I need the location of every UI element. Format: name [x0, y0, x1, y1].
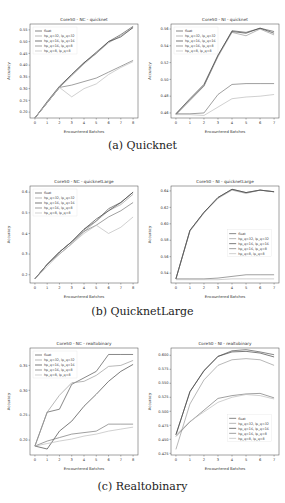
y-axis-label: Accuracy — [6, 392, 11, 410]
y-tick-label: 0.425 — [158, 452, 168, 456]
y-tick-label: 0.30 — [19, 87, 28, 91]
x-tick-label: 6 — [259, 286, 262, 290]
y-tick-label: 0.30 — [19, 389, 28, 393]
y-tick-label: 0.40 — [19, 63, 28, 67]
x-tick-label: 1 — [46, 121, 48, 125]
y-axis-label: Accuracy — [6, 225, 11, 243]
caption-quicknetlarge: (b) QuicknetLarge — [0, 305, 285, 318]
chart-legend: floathp_q=32, lp_q=32hp_q=16, lp_q=16hp_… — [33, 351, 77, 378]
x-axis-label: Encountered Batches — [64, 129, 105, 134]
x-tick-label: 3 — [217, 286, 219, 290]
x-tick-label: 1 — [189, 121, 191, 125]
x-tick-label: 8 — [132, 458, 135, 462]
x-tick-label: 4 — [231, 286, 234, 290]
y-tick-label: 0.600 — [158, 353, 169, 357]
x-tick-label: 1 — [46, 286, 48, 290]
legend-entry: hp_q=16, lp_q=8 — [185, 44, 214, 48]
y-tick-label: 0.525 — [158, 395, 168, 399]
legend-entry: hp_q=16, lp_q=16 — [185, 39, 216, 43]
y-tick-label: 0.2 — [22, 273, 28, 277]
y-tick-label: 0.50 — [19, 40, 28, 44]
chart-title: Core50 - NI - realtobinary — [198, 341, 252, 346]
x-tick-label: 6 — [107, 458, 110, 462]
chart-ni-quicknet: Core50 - NI - quicknet012345670.460.480.… — [143, 14, 283, 136]
x-tick-label: 3 — [71, 121, 73, 125]
y-tick-label: 0.575 — [158, 367, 168, 371]
y-tick-label: 0.25 — [19, 413, 27, 417]
legend-entry: hp_q=32, lp_q=32 — [44, 358, 75, 362]
x-tick-label: 5 — [245, 286, 247, 290]
chart-legend: floathp_q=32, lp_q=32hp_q=16, lp_q=16hp_… — [227, 230, 271, 257]
chart-ni-realtobinary: Core50 - NI - realtobinary012345670.4250… — [143, 338, 283, 473]
legend-entry: hp_q=16, lp_q=8 — [44, 368, 73, 372]
legend-entry: hp_q=8, lp_q=8 — [44, 49, 71, 53]
y-tick-label: 0.500 — [158, 410, 169, 414]
y-axis-label: Accuracy — [6, 62, 11, 80]
x-tick-label: 0 — [175, 286, 178, 290]
line-chart-svg: Core50 - NI - quicknetLarge012345670.540… — [143, 176, 283, 301]
x-tick-label: 7 — [273, 286, 275, 290]
x-tick-label: 1 — [46, 458, 48, 462]
x-tick-label: 4 — [83, 458, 86, 462]
x-tick-label: 8 — [132, 121, 135, 125]
line-chart-svg: Core50 - NC - realtobinary0123456780.200… — [2, 338, 142, 473]
line-chart-svg: Core50 - NC - quicknet0123456780.200.250… — [2, 14, 142, 136]
y-tick-label: 0.45 — [19, 52, 27, 56]
legend-entry: float — [44, 191, 52, 195]
legend-entry: hp_q=8, lp_q=8 — [238, 252, 265, 256]
chart-nc-quicknet: Core50 - NC - quicknet0123456780.200.250… — [2, 14, 142, 136]
x-axis-label: Encountered Batches — [205, 129, 246, 134]
x-tick-label: 2 — [58, 121, 60, 125]
y-tick-label: 0.6 — [22, 190, 28, 194]
legend-entry: float — [238, 232, 246, 236]
y-tick-label: 0.46 — [160, 111, 169, 115]
x-tick-label: 0 — [175, 458, 178, 462]
line-chart-svg: Core50 - NC - quicknetLarge0123456780.20… — [2, 176, 142, 301]
legend-entry: hp_q=16, lp_q=16 — [238, 242, 269, 246]
y-tick-label: 0.52 — [160, 61, 168, 65]
x-tick-label: 3 — [71, 458, 73, 462]
y-tick-label: 0.20 — [19, 438, 28, 442]
x-axis-label: Encountered Batches — [64, 294, 105, 299]
x-tick-label: 0 — [34, 121, 37, 125]
x-tick-label: 5 — [245, 458, 247, 462]
chart-legend: floathp_q=32, lp_q=32hp_q=16, lp_q=16hp_… — [33, 189, 77, 216]
y-tick-label: 0.48 — [160, 94, 169, 98]
y-tick-label: 0.54 — [160, 44, 169, 48]
y-tick-label: 0.35 — [19, 364, 27, 368]
legend-entry: hp_q=8, lp_q=8 — [44, 211, 71, 215]
x-tick-label: 2 — [203, 121, 205, 125]
x-tick-label: 2 — [203, 458, 205, 462]
x-tick-label: 0 — [175, 121, 178, 125]
y-tick-label: 0.58 — [160, 238, 169, 242]
y-tick-label: 0.3 — [22, 252, 28, 256]
legend-entry: float — [44, 353, 52, 357]
x-tick-label: 5 — [95, 121, 97, 125]
chart-nc-realtobinary: Core50 - NC - realtobinary0123456780.200… — [2, 338, 142, 473]
x-tick-label: 5 — [95, 458, 97, 462]
x-axis-label: Encountered Batches — [205, 466, 246, 471]
x-tick-label: 5 — [245, 121, 247, 125]
legend-entry: float — [238, 417, 246, 421]
y-tick-label: 0.25 — [19, 99, 27, 103]
y-tick-label: 0.50 — [160, 78, 169, 82]
legend-entry: hp_q=8, lp_q=8 — [44, 373, 71, 377]
x-tick-label: 4 — [83, 286, 86, 290]
x-axis-label: Encountered Batches — [205, 294, 246, 299]
legend-entry: hp_q=32, lp_q=32 — [238, 422, 269, 426]
y-tick-label: 0.35 — [19, 75, 27, 79]
chart-nc-quicknetlarge: Core50 - NC - quicknetLarge0123456780.20… — [2, 176, 142, 301]
legend-entry: hp_q=16, lp_q=8 — [44, 206, 73, 210]
x-tick-label: 7 — [273, 458, 275, 462]
line-chart-svg: Core50 - NI - realtobinary012345670.4250… — [143, 338, 283, 473]
x-tick-label: 6 — [107, 121, 110, 125]
chart-title: Core50 - NC - realtobinary — [57, 341, 112, 346]
legend-entry: hp_q=16, lp_q=16 — [44, 39, 75, 43]
line-chart-svg: Core50 - NI - quicknet012345670.460.480.… — [143, 14, 283, 136]
y-tick-label: 0.450 — [158, 438, 169, 442]
y-tick-label: 0.475 — [158, 424, 168, 428]
legend-entry: hp_q=16, lp_q=16 — [238, 427, 269, 431]
y-tick-label: 0.5 — [22, 211, 28, 215]
legend-entry: hp_q=32, lp_q=32 — [44, 34, 75, 38]
y-axis-label: Accuracy — [147, 392, 152, 410]
